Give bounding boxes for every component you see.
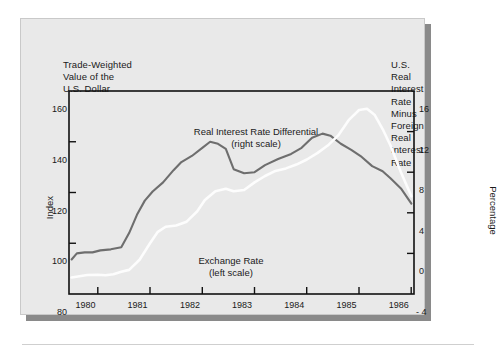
series-annotation-real-interest-rate-differential: Real Interest Rate Differential (right s… xyxy=(171,126,341,151)
x-tick-marks xyxy=(98,287,411,294)
chart-card: Trade-Weighted Value of the U.S. Dollar … xyxy=(20,18,425,315)
series-annotation-exchange-rate: Exchange Rate (left scale) xyxy=(161,255,301,280)
left-tick-marks xyxy=(69,142,76,244)
footer-rule xyxy=(22,344,474,345)
series-line-real-interest-rate-differential xyxy=(72,134,412,260)
right-axis-title: Percentage xyxy=(488,176,499,246)
